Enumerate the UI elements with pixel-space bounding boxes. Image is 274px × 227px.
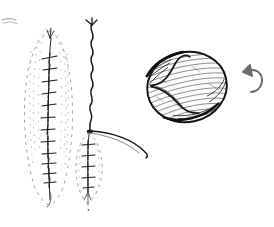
illustration-svg — [0, 0, 274, 227]
sketch-canvas — [0, 0, 274, 227]
paper-background — [0, 0, 274, 227]
specimen-2-stipple-dot — [88, 209, 90, 211]
